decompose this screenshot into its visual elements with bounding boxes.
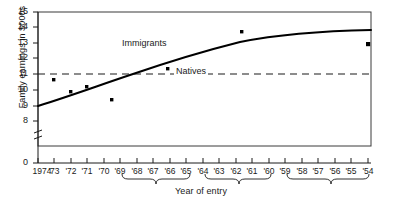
y-tick-label: 14 xyxy=(8,21,28,31)
data-point xyxy=(240,30,243,33)
y-tick-label: 12 xyxy=(8,52,28,62)
x-tick-label: '54 xyxy=(357,166,379,176)
y-axis xyxy=(33,12,38,163)
immigrants-series-label: Immigrants xyxy=(122,38,167,48)
data-point xyxy=(85,85,88,88)
data-point xyxy=(166,67,169,70)
y-tick-label: 11 xyxy=(8,68,28,78)
data-points xyxy=(52,30,370,101)
data-point xyxy=(52,78,55,81)
y-tick-label: 8 xyxy=(8,115,28,125)
data-point xyxy=(366,42,370,46)
data-point xyxy=(110,98,113,101)
natives-series-label: Natives xyxy=(174,66,208,76)
y-tick-label: 9 xyxy=(8,100,28,110)
y-tick-label: 13 xyxy=(8,37,28,47)
chart-figure: Family earnings in $000s Year of entry xyxy=(0,0,402,206)
y-tick-label: 15 xyxy=(8,6,28,16)
data-point xyxy=(69,90,72,93)
y-tick-label-zero: 0 xyxy=(8,157,28,167)
x-axis xyxy=(38,158,371,163)
y-tick-label: 10 xyxy=(8,84,28,94)
